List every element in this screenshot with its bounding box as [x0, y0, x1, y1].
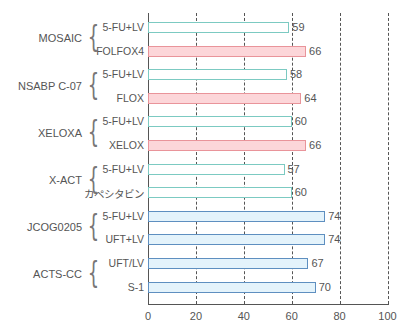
x-tick-label: 80: [333, 310, 345, 322]
bar: [148, 211, 325, 222]
gridline: [340, 13, 341, 304]
trial-label: ACTS-CC: [33, 268, 82, 280]
x-tick-label: 40: [238, 310, 250, 322]
arm-label: XELOX: [52, 139, 144, 151]
x-tick-label: 20: [190, 310, 202, 322]
value-label: 58: [290, 68, 302, 80]
bar-chart: 020406080100MOSAIC{5-FU+LV59FOLFOX466NSA…: [0, 0, 406, 334]
bar: [148, 140, 306, 151]
bar: [148, 258, 308, 269]
bar: [148, 187, 292, 198]
value-label: 67: [311, 257, 323, 269]
bar: [148, 69, 287, 80]
x-tick-label: 0: [145, 310, 151, 322]
arm-label: 5-FU+LV: [52, 21, 144, 33]
bar: [148, 46, 306, 57]
arm-label: カペシタビン: [52, 186, 144, 201]
value-label: 59: [292, 21, 304, 33]
bar: [148, 234, 325, 245]
bar: [148, 93, 301, 104]
trial-label: JCOG0205: [27, 221, 82, 233]
arm-label: FLOX: [52, 92, 144, 104]
bar: [148, 164, 285, 175]
arm-label: UFT/LV: [52, 257, 144, 269]
x-tick-label: 100: [378, 310, 396, 322]
arm-label: FOLFOX4: [52, 45, 144, 57]
arm-label: 5-FU+LV: [52, 115, 144, 127]
bar: [148, 282, 316, 293]
x-axis-line: [148, 304, 389, 305]
bar: [148, 116, 292, 127]
arm-label: 5-FU+LV: [52, 163, 144, 175]
value-label: 74: [328, 233, 340, 245]
value-label: 66: [309, 45, 321, 57]
value-label: 64: [304, 92, 316, 104]
value-label: 57: [288, 163, 300, 175]
trial-label: MOSAIC: [39, 32, 82, 44]
value-label: 66: [309, 139, 321, 151]
gridline: [388, 13, 389, 304]
trial-label: XELOXA: [38, 127, 82, 139]
arm-label: 5-FU+LV: [52, 68, 144, 80]
arm-label: 5-FU+LV: [52, 210, 144, 222]
arm-label: UFT+LV: [52, 233, 144, 245]
bar: [148, 22, 289, 33]
trial-label: NSABP C-07: [18, 80, 82, 92]
arm-label: S-1: [52, 281, 144, 293]
value-label: 74: [328, 210, 340, 222]
value-label: 60: [295, 115, 307, 127]
value-label: 60: [295, 186, 307, 198]
value-label: 70: [319, 281, 331, 293]
trial-label: X-ACT: [49, 174, 82, 186]
x-tick-label: 60: [286, 310, 298, 322]
